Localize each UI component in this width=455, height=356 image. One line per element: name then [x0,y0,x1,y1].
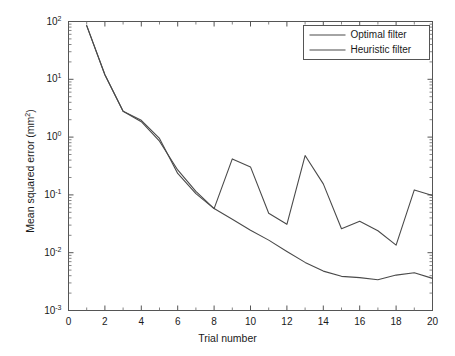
x-tick-label: 14 [318,317,329,327]
x-tick-label: 2 [102,317,108,327]
y-axis-title-text: Mean squared error (mm [24,117,36,233]
y-tick-label: 100 [46,132,61,142]
y-axis-title-exponent: 2 [24,113,31,117]
x-axis-title: Trial number [0,332,455,344]
y-axis-title-close: ) [24,109,36,113]
y-axis-title: Mean squared error (mm2) [24,71,36,271]
figure-container: 02468101214161820 10-310-210-1100101102 … [0,0,455,356]
x-tick-label: 12 [281,317,292,327]
y-tick-label: 10-3 [44,306,61,316]
legend-label-0: Optimal filter [351,30,407,40]
axes-frame [69,22,433,311]
x-tick-label: 18 [391,317,402,327]
x-tick-label: 16 [354,317,365,327]
y-tick-label: 10-2 [44,248,61,258]
x-tick-label: 0 [66,317,72,327]
y-tick-label: 102 [46,17,61,27]
y-tick-label: 101 [46,74,61,84]
x-tick-label: 4 [139,317,145,327]
axis-ticks [69,22,433,311]
series-line-0 [87,26,433,280]
y-tick-label: 10-1 [44,190,61,200]
data-series [87,26,433,280]
x-tick-label: 10 [245,317,256,327]
x-tick-label: 6 [175,317,181,327]
x-tick-label: 8 [211,317,217,327]
legend-label-1: Heuristic filter [351,45,412,55]
x-tick-label: 20 [427,317,438,327]
